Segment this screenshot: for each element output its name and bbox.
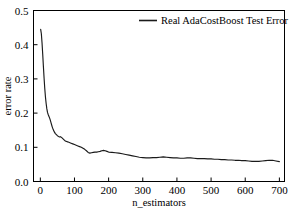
y-tick-label: 0.2	[15, 107, 29, 119]
x-tick-label: 700	[271, 184, 288, 196]
x-tick-label: 500	[203, 184, 220, 196]
x-tick-label: 100	[66, 184, 83, 196]
y-tick-label: 0.5	[15, 5, 29, 17]
y-tick-label: 0.1	[15, 141, 29, 153]
y-axis-ticks	[34, 11, 38, 182]
x-axis-title: n_estimators	[132, 197, 186, 208]
legend-label: Real AdaCostBoost Test Error	[161, 15, 289, 26]
y-tick-label: 0.3	[15, 73, 29, 85]
y-tick-label: 0.0	[15, 176, 29, 188]
line-chart: 0.00.10.20.30.40.5 010020030040050060070…	[0, 0, 296, 217]
chart-figure: 0.00.10.20.30.40.5 010020030040050060070…	[0, 0, 296, 217]
y-axis-title: error rate	[2, 76, 13, 115]
x-tick-label: 600	[237, 184, 254, 196]
y-tick-label: 0.4	[15, 39, 29, 51]
x-tick-label: 200	[100, 184, 117, 196]
plot-frame	[34, 11, 285, 182]
data-series-group	[41, 29, 280, 161]
x-tick-label: 400	[169, 184, 186, 196]
x-tick-label: 300	[135, 184, 152, 196]
chart-legend: Real AdaCostBoost Test Error	[139, 15, 289, 26]
x-axis-tick-labels: 0100200300400500600700	[38, 184, 289, 196]
x-tick-label: 0	[38, 184, 44, 196]
series-line-real-adacostboost-test-error	[41, 29, 280, 161]
y-axis-tick-labels: 0.00.10.20.30.40.5	[15, 5, 29, 188]
x-axis-ticks	[40, 178, 279, 182]
